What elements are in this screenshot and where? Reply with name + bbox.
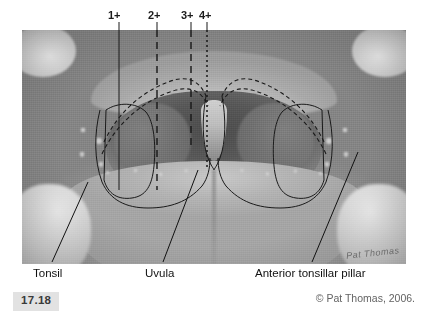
grade-label-2plus: 2+ [148, 10, 160, 21]
grade-label-3plus: 3+ [181, 10, 193, 21]
figure-container: 1+ 2+ 3+ 4+ [0, 0, 427, 321]
callout-label-tonsil: Tonsil [33, 268, 62, 280]
copyright-credit: © Pat Thomas, 2006. [316, 293, 415, 304]
photo-lower-lip-right [337, 184, 406, 264]
callout-label-anterior-tonsillar-pillar: Anterior tonsillar pillar [255, 268, 366, 280]
callout-label-uvula: Uvula [145, 268, 174, 280]
oral-cavity-photograph: Pat Thomas [22, 30, 406, 264]
grade-label-1plus: 1+ [108, 10, 120, 21]
figure-number-badge: 17.18 [13, 292, 59, 311]
photo-median-sulcus [212, 170, 217, 264]
grade-label-4plus: 4+ [199, 10, 211, 21]
